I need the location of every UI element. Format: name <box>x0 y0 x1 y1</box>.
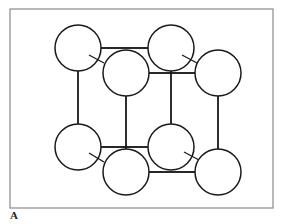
cubic-lattice-diagram <box>0 0 292 224</box>
atom-front-top-left <box>103 50 149 96</box>
atom-back-bottom-left <box>55 124 101 170</box>
atom-back-top-right <box>148 25 194 71</box>
atom-back-top-left <box>55 25 101 71</box>
atom-back-bottom-right <box>148 124 194 170</box>
panel-label: A <box>10 210 18 221</box>
atom-front-bottom-left <box>103 149 149 195</box>
atom-front-bottom-right <box>195 149 241 195</box>
back-atoms <box>55 25 194 170</box>
atom-front-top-right <box>195 50 241 96</box>
front-atoms <box>103 50 241 195</box>
